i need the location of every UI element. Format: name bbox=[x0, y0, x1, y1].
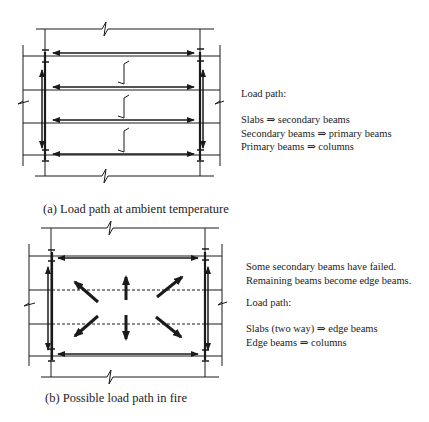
panel-a-load-path-line: Secondary beams ⇒ primary beams bbox=[241, 127, 392, 141]
panel-b-note-line: Some secondary beams have failed. bbox=[246, 260, 411, 274]
panel-a-load-path-heading: Load path: bbox=[241, 87, 286, 101]
panel-b-load-path-line: Edge beams ⇒ columns bbox=[246, 336, 378, 350]
panel-a-load-path-line: Slabs ⇒ secondary beams bbox=[241, 113, 392, 127]
panel-b-load-path-line: Slabs (two way) ⇒ edge beams bbox=[246, 322, 378, 336]
panel-b-caption: (b) Possible load path in fire bbox=[45, 391, 187, 406]
panel-b-load-path-heading: Load path: bbox=[246, 296, 291, 310]
panel-a-load-path-line: Primary beams ⇒ columns bbox=[241, 140, 392, 154]
panel-a-load-path-list: Slabs ⇒ secondary beams Secondary beams … bbox=[241, 113, 392, 154]
diagram-a-ambient bbox=[18, 22, 224, 183]
panel-a-caption: (a) Load path at ambient temperature bbox=[43, 202, 229, 217]
panel-b-load-path-list: Slabs (two way) ⇒ edge beams Edge beams … bbox=[246, 322, 378, 349]
panel-b-note-line: Remaining beams become edge beams. bbox=[246, 274, 411, 288]
diagram-b-fire bbox=[24, 221, 227, 384]
panel-b-note: Some secondary beams have failed. Remain… bbox=[246, 260, 411, 287]
